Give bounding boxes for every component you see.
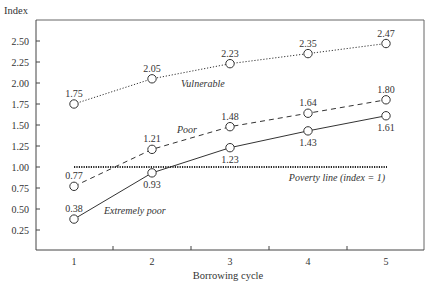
y-tick-label: 0.25 — [12, 225, 30, 236]
data-point-marker — [304, 109, 312, 117]
data-label: 1.23 — [221, 154, 239, 165]
data-point-marker — [148, 75, 156, 83]
data-label: 0.77 — [65, 170, 83, 181]
x-tick-label: 1 — [72, 256, 77, 267]
x-tick-label: 4 — [306, 256, 311, 267]
series-label-extremely-poor: Extremely poor — [103, 205, 166, 216]
data-label: 1.75 — [65, 88, 83, 99]
y-tick-label: 2.50 — [12, 36, 30, 47]
data-point-marker — [226, 122, 234, 130]
data-point-marker — [148, 145, 156, 153]
x-tick-label: 2 — [150, 256, 155, 267]
data-point-marker — [70, 182, 78, 190]
data-point-marker — [226, 59, 234, 67]
y-tick-label: 2.00 — [12, 78, 30, 89]
data-label: 1.61 — [377, 122, 395, 133]
data-label: 2.35 — [299, 38, 317, 49]
data-point-marker — [304, 49, 312, 57]
series-label-vulnerable: Vulnerable — [181, 78, 225, 89]
x-axis-title: Borrowing cycle — [193, 270, 264, 281]
data-point-marker — [382, 112, 390, 120]
y-tick-label: 1.00 — [12, 162, 30, 173]
x-tick-label: 5 — [384, 256, 389, 267]
y-tick-label: 0.75 — [12, 183, 30, 194]
data-label: 1.80 — [377, 84, 395, 95]
data-point-marker — [382, 96, 390, 104]
data-label: 1.64 — [299, 97, 317, 108]
x-tick-label: 3 — [228, 256, 233, 267]
y-tick-label: 1.50 — [12, 120, 30, 131]
data-label: 0.38 — [65, 203, 83, 214]
data-label: 1.43 — [299, 137, 317, 148]
data-label: 2.47 — [377, 28, 395, 39]
y-tick-label: 2.25 — [12, 57, 30, 68]
data-point-marker — [226, 143, 234, 151]
data-label: 1.48 — [221, 111, 239, 122]
data-point-marker — [70, 100, 78, 108]
series-group: 1.752.052.232.352.470.771.211.481.641.80… — [65, 28, 395, 224]
data-point-marker — [304, 127, 312, 135]
line-chart: 0.250.500.751.001.251.501.752.002.252.50… — [0, 0, 431, 288]
data-label: 1.21 — [143, 133, 161, 144]
poverty-line-label: Poverty line (index = 1) — [288, 172, 386, 184]
y-tick-label: 1.75 — [12, 99, 30, 110]
data-label: 2.23 — [221, 48, 239, 59]
y-axis-title: Index — [4, 5, 29, 16]
x-axis-ticks: 12345 — [72, 246, 389, 267]
data-label: 2.05 — [143, 63, 161, 74]
data-label: 0.93 — [143, 179, 161, 190]
data-point-marker — [382, 39, 390, 47]
y-tick-label: 0.50 — [12, 204, 30, 215]
data-point-marker — [148, 169, 156, 177]
series-vulnerable: 1.752.052.232.352.47 — [65, 28, 395, 109]
data-point-marker — [70, 215, 78, 223]
y-tick-label: 1.25 — [12, 141, 30, 152]
series-label-poor: Poor — [176, 124, 197, 135]
